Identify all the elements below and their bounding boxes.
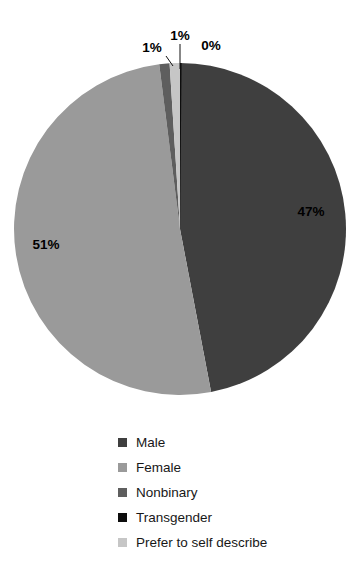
legend-item-transgender[interactable]: Transgender — [118, 505, 348, 530]
legend-item-label: Transgender — [136, 511, 212, 525]
legend-swatch-icon — [118, 538, 127, 547]
slice-label-female: 51% — [32, 237, 59, 252]
pie-chart-graphic: 47% 51% 1% 1% 0% — [0, 0, 364, 420]
pie-slices-group — [14, 63, 346, 395]
legend-item-label: Prefer to self describe — [136, 536, 267, 550]
pie-slice-male — [180, 63, 346, 392]
slice-label-nonbinary: 1% — [142, 40, 162, 55]
pie-chart: 47% 51% 1% 1% 0% MaleFemaleNonbinaryTran… — [0, 0, 364, 568]
legend-item-male[interactable]: Male — [118, 430, 348, 455]
legend-item-prefer-to-self-describe[interactable]: Prefer to self describe — [118, 530, 348, 555]
legend-swatch-icon — [118, 488, 127, 497]
legend-item-nonbinary[interactable]: Nonbinary — [118, 480, 348, 505]
legend-item-label: Male — [136, 436, 165, 450]
legend-item-label: Female — [136, 461, 181, 475]
legend-item-female[interactable]: Female — [118, 455, 348, 480]
legend: MaleFemaleNonbinaryTransgenderPrefer to … — [118, 430, 348, 555]
slice-label-male: 47% — [297, 204, 324, 219]
slice-label-transgender: 0% — [201, 38, 221, 53]
legend-swatch-icon — [118, 463, 127, 472]
legend-swatch-icon — [118, 438, 127, 447]
legend-swatch-icon — [118, 513, 127, 522]
slice-label-prefer-to-self-describe: 1% — [170, 28, 190, 43]
legend-item-label: Nonbinary — [136, 486, 198, 500]
